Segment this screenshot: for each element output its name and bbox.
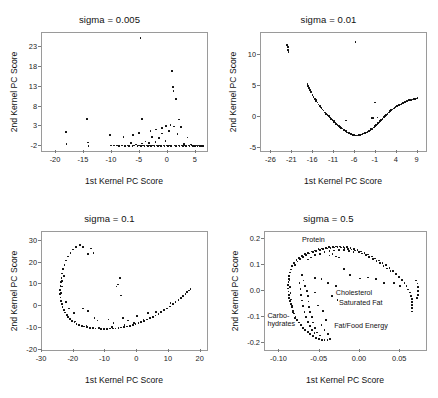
y-tick-label: 5 (234, 80, 256, 89)
panel-sigma-0005: sigma = 0.005 1st Kernel PC Score 2nd Ke… (0, 0, 219, 199)
data-point (155, 311, 157, 313)
y-tick-label: 30 (15, 235, 37, 244)
plot-area (41, 32, 208, 152)
data-point (59, 289, 61, 291)
kernel-pca-figure: sigma = 0.005 1st Kernel PC Score 2nd Ke… (0, 0, 438, 398)
data-point (106, 328, 108, 330)
y-tick-label: -20 (15, 345, 37, 354)
data-point (377, 122, 379, 124)
data-point (398, 276, 400, 278)
data-point (289, 300, 291, 302)
data-point (187, 137, 189, 139)
data-point (158, 137, 160, 139)
x-tick-label: -16 (307, 155, 318, 164)
panel-sigma-01: sigma = 0.1 1st Kernel PC Score 2nd Kern… (0, 199, 219, 398)
data-point (92, 327, 94, 329)
data-point (404, 282, 406, 284)
data-point (288, 281, 290, 283)
data-point (315, 250, 317, 252)
data-point (73, 312, 75, 314)
data-point (294, 264, 296, 266)
x-tick-label: -15 (78, 155, 89, 164)
data-point (88, 145, 90, 147)
x-tick-mark (312, 150, 313, 153)
data-point (82, 246, 84, 248)
data-point (417, 97, 419, 99)
plot-area (260, 32, 427, 152)
data-point (409, 292, 411, 294)
data-point (130, 142, 132, 144)
data-point (290, 299, 292, 301)
y-tick-mark (38, 145, 41, 146)
data-point (303, 280, 305, 282)
data-point (329, 255, 331, 257)
x-tick-mark (319, 349, 320, 352)
data-point (290, 269, 292, 271)
data-point (417, 286, 419, 288)
data-point (113, 145, 115, 147)
data-point (395, 273, 397, 275)
data-point (63, 309, 65, 311)
data-point (297, 261, 299, 263)
y-tick-label: -2 (15, 141, 37, 150)
data-point (386, 268, 388, 270)
x-tick-label: -10 (99, 354, 110, 363)
data-point (308, 301, 310, 303)
x-tick-label: -0.10 (270, 354, 287, 363)
data-point (401, 279, 403, 281)
data-point (169, 306, 171, 308)
data-point (411, 301, 413, 303)
x-tick-label: 0 (165, 155, 169, 164)
data-point (314, 292, 316, 294)
data-point (72, 249, 74, 251)
data-point (87, 253, 89, 255)
x-tick-label: -20 (67, 354, 78, 363)
data-point (129, 325, 131, 327)
y-tick-label: -0.1 (238, 312, 260, 321)
x-tick-label: 0.00 (352, 354, 366, 363)
data-point (166, 308, 168, 310)
data-point (312, 335, 314, 337)
data-point (321, 339, 323, 341)
plot-annotation: Protein (302, 236, 325, 244)
data-point (327, 333, 329, 335)
data-point (71, 320, 73, 322)
data-point (304, 285, 306, 287)
data-point (66, 143, 68, 145)
data-point (416, 297, 418, 299)
data-point (309, 311, 311, 313)
data-point (175, 145, 177, 147)
y-tick-mark (261, 316, 264, 317)
data-point (149, 317, 151, 319)
y-tick-mark (38, 106, 41, 107)
data-point (154, 145, 156, 147)
data-point (175, 98, 177, 100)
data-point (393, 282, 395, 284)
data-point (121, 145, 123, 147)
data-point (100, 328, 102, 330)
data-point (128, 145, 130, 147)
x-tick-label: -5 (136, 155, 143, 164)
data-point (374, 258, 376, 260)
x-axis-label: 1st Kernel PC Score (306, 375, 384, 385)
data-point (324, 339, 326, 341)
data-point (148, 142, 150, 144)
data-point (288, 294, 290, 296)
plot-annotation: Saturated Fat (339, 299, 383, 307)
data-point (319, 249, 321, 251)
x-tick-label: 0 (134, 354, 138, 363)
x-tick-mark (167, 150, 168, 153)
data-point (308, 306, 310, 308)
data-point (140, 321, 142, 323)
data-point (168, 130, 170, 132)
data-point (109, 134, 111, 136)
data-point (171, 70, 173, 72)
data-point (124, 324, 126, 326)
y-tick-mark (38, 283, 41, 284)
plot-area: ProteinCholesterolSaturated FatFat/Food … (264, 231, 427, 351)
data-point (345, 120, 347, 122)
y-tick-label: -10 (15, 323, 37, 332)
data-point (170, 124, 172, 126)
data-point (288, 51, 290, 53)
x-tick-label: 20 (196, 354, 204, 363)
